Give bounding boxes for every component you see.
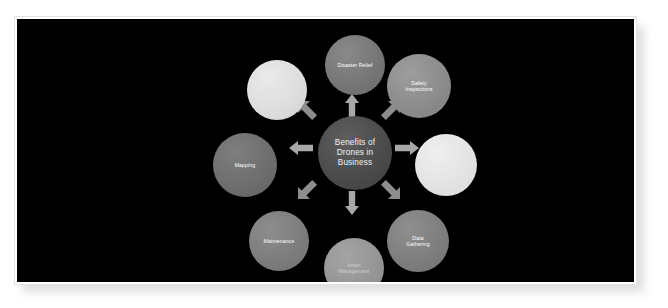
node-label-maintenance: Maintenance xyxy=(251,238,307,244)
radial-hub-and-spoke-diagram: Disaster Relief Safety Inspections Deliv… xyxy=(17,19,634,282)
arrow-down-right-icon xyxy=(380,179,400,199)
arrow-down-left-icon xyxy=(298,179,318,199)
arrow-up-icon xyxy=(345,94,359,118)
slide-canvas: Disaster Relief Safety Inspections Deliv… xyxy=(17,19,634,282)
node-delivery[interactable]: Delivery xyxy=(415,134,477,196)
node-surveying[interactable]: Surveying xyxy=(247,60,307,120)
node-label-asset-management: Asset Management xyxy=(326,262,382,274)
screenshot-canvas: Disaster Relief Safety Inspections Deliv… xyxy=(0,0,668,308)
node-label-safety-inspections: Safety Inspections xyxy=(389,80,449,92)
node-label-disaster-relief: Disaster Relief xyxy=(327,62,383,68)
arrow-left-icon xyxy=(289,141,313,155)
node-label-mapping: Mapping xyxy=(215,162,275,168)
node-label-surveying: Surveying xyxy=(249,87,305,93)
node-asset-management[interactable]: Asset Management xyxy=(324,238,384,282)
node-hub-center[interactable]: Benefits of Drones in Business xyxy=(318,116,392,190)
arrow-down-icon xyxy=(345,191,359,215)
node-mapping[interactable]: Mapping xyxy=(213,133,277,197)
node-disaster-relief[interactable]: Disaster Relief xyxy=(325,35,385,95)
node-data-gathering[interactable]: Data Gathering xyxy=(387,210,449,272)
arrow-right-icon xyxy=(395,141,419,155)
node-maintenance[interactable]: Maintenance xyxy=(249,211,309,271)
slide-frame: Disaster Relief Safety Inspections Deliv… xyxy=(14,16,637,285)
node-safety-inspections[interactable]: Safety Inspections xyxy=(387,54,451,118)
node-label-data-gathering: Data Gathering xyxy=(389,235,447,247)
node-label-delivery: Delivery xyxy=(417,162,475,168)
node-label-hub: Benefits of Drones in Business xyxy=(320,138,390,167)
